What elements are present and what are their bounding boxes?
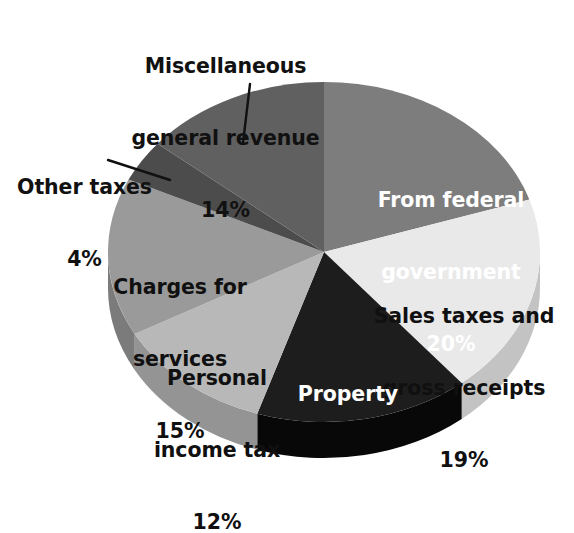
label-personal-income-tax-value: 12% [144, 510, 290, 533]
label-property-taxes-value: 16% [288, 526, 408, 533]
label-other-taxes: Other taxes 4% [0, 127, 172, 319]
label-other-taxes-line1: Other taxes [0, 175, 172, 199]
label-other-taxes-value: 4% [0, 247, 172, 271]
label-miscellaneous-general-revenue-line1: Miscellaneous [58, 54, 393, 78]
